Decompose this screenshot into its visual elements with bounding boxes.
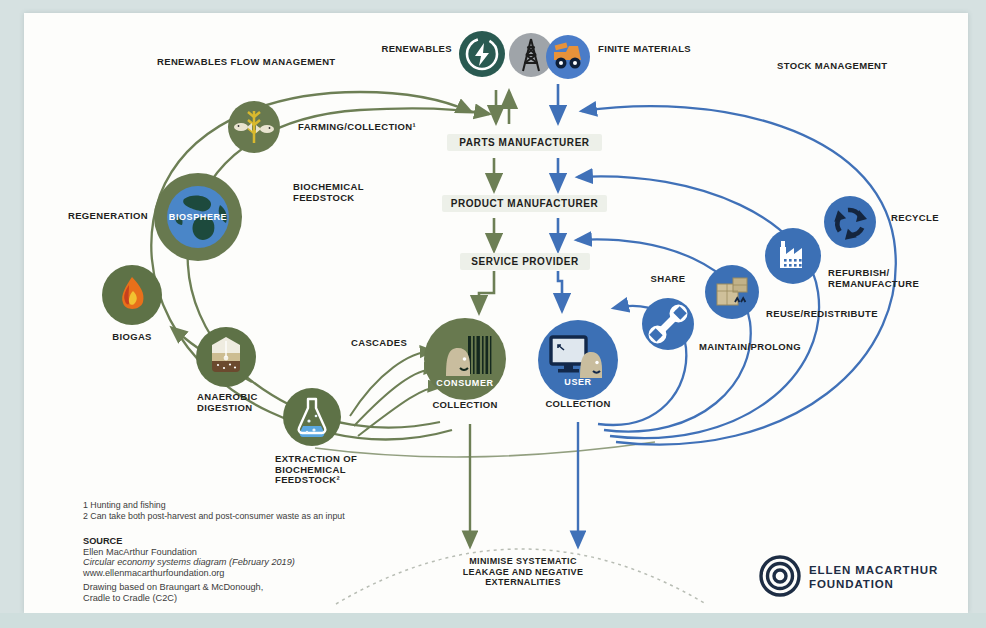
- collection-left-label: COLLECTION: [420, 400, 510, 411]
- renewables-circle: [459, 31, 505, 77]
- minimise-leakage-label: MINIMISE SYSTEMATIC LEAKAGE AND NEGATIVE…: [438, 556, 608, 588]
- user-label: USER: [538, 377, 618, 387]
- flame-icon: [102, 265, 162, 325]
- footnotes: 1 Hunting and fishing 2 Can take both po…: [83, 500, 345, 521]
- footnote-1: 1 Hunting and fishing: [83, 500, 345, 511]
- service-provider-node: SERVICE PROVIDER: [460, 253, 590, 270]
- maintain-prolong-label: MAINTAIN/PROLONG: [699, 342, 801, 353]
- extraction-circle: [283, 388, 341, 446]
- farming-collection-circle: [228, 101, 280, 153]
- user-circle: USER: [538, 320, 618, 400]
- anaerobic-digestion-label: ANAEROBIC DIGESTION: [197, 392, 258, 413]
- footnote-2: 2 Can take both post-harvest and post-co…: [83, 511, 345, 522]
- share-circle: [642, 298, 694, 350]
- collection-right-label: COLLECTION: [533, 399, 623, 410]
- extraction-label: EXTRACTION OF BIOCHEMICAL FEEDSTOCK²: [275, 454, 357, 486]
- emf-logo-icon: [757, 553, 803, 599]
- recycle-circle: [824, 196, 876, 248]
- flask-icon: [283, 388, 341, 446]
- finite-materials-circle: [546, 35, 590, 79]
- source-title: Circular economy systems diagram (Februa…: [83, 557, 295, 568]
- biogas-label: BIOGAS: [96, 332, 168, 343]
- source-url: www.ellenmacarthurfoundation.org: [83, 568, 295, 579]
- biochemical-feedstock-label: BIOCHEMICAL FEEDSTOCK: [293, 182, 364, 203]
- product-manufacturer-node: PRODUCT MANUFACTURER: [442, 195, 607, 212]
- finite-materials-label: FINITE MATERIALS: [598, 44, 691, 55]
- source-heading: SOURCE: [83, 536, 295, 547]
- biogas-circle: [102, 265, 162, 325]
- renewables-label: RENEWABLES: [352, 44, 452, 55]
- mining-truck-icon: [546, 35, 590, 79]
- reuse-redistribute-circle: [765, 228, 821, 284]
- wrench-icon: [642, 298, 694, 350]
- farming-collection-label: FARMING/COLLECTION¹: [298, 122, 416, 133]
- recycle-arrows-icon: [824, 196, 876, 248]
- stock-management-heading: STOCK MANAGEMENT: [777, 61, 887, 72]
- factory-icon: [765, 228, 821, 284]
- anaerobic-digestion-circle: [196, 327, 256, 387]
- boxes-icon: [705, 265, 759, 319]
- biosphere-circle: BIOSPHERE: [154, 173, 242, 261]
- reuse-redistribute-label: REUSE/REDISTRIBUTE: [766, 309, 878, 320]
- share-label: SHARE: [640, 274, 696, 285]
- maintain-prolong-circle: [705, 265, 759, 319]
- cascades-label: CASCADES: [351, 338, 407, 349]
- emf-logo-line1: ELLEN MACARTHUR: [809, 564, 938, 578]
- wheat-fish-icon: [228, 101, 280, 153]
- user-monitor-icon: [538, 320, 618, 400]
- source-credit-1: Drawing based on Braungart & McDonough,: [83, 582, 295, 593]
- biosphere-label: BIOSPHERE: [154, 212, 242, 222]
- renewables-flow-management-heading: RENEWABLES FLOW MANAGEMENT: [157, 57, 336, 68]
- anaerobic-digestion-icon: [196, 327, 256, 387]
- consumer-label: CONSUMER: [424, 378, 506, 388]
- consumer-circle: CONSUMER: [424, 318, 506, 400]
- refurbish-remanufacture-label: REFURBISH/ REMANUFACTURE: [828, 268, 919, 289]
- emf-logo-text: ELLEN MACARTHUR FOUNDATION: [809, 564, 938, 591]
- lightning-recycle-icon: [459, 31, 505, 77]
- parts-manufacturer-node: PARTS MANUFACTURER: [447, 134, 602, 151]
- recycle-label: RECYCLE: [891, 213, 939, 224]
- source-org: Ellen MacArthur Foundation: [83, 547, 295, 558]
- emf-logo-line2: FOUNDATION: [809, 578, 938, 592]
- photographed-diagram-page: RENEWABLES FLOW MANAGEMENT RENEWABLES FI…: [0, 0, 986, 628]
- source-credit-2: Cradle to Cradle (C2C): [83, 593, 295, 604]
- regeneration-label: REGENERATION: [56, 211, 148, 222]
- source-block: SOURCE Ellen MacArthur Foundation Circul…: [83, 536, 295, 603]
